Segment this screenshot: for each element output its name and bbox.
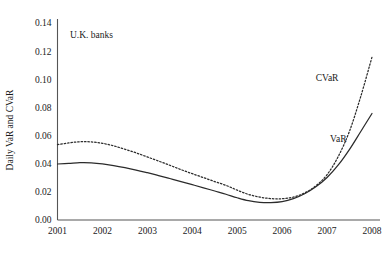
axis-lines — [58, 19, 381, 220]
x-tick-label: 2004 — [183, 226, 202, 236]
chart-container: 0.000.020.040.060.080.100.120.14 2001200… — [0, 0, 385, 257]
var-cvar-line-chart: 0.000.020.040.060.080.100.120.14 2001200… — [0, 0, 385, 257]
plot-annotation: U.K. banks — [70, 30, 113, 40]
series-label-var: VaR — [330, 134, 347, 144]
x-tick-label: 2008 — [363, 226, 382, 236]
y-tick-label: 0.00 — [35, 215, 52, 225]
series-label-cvar: CVaR — [316, 73, 339, 83]
x-tick-label: 2003 — [138, 226, 157, 236]
x-tick-label: 2005 — [228, 226, 247, 236]
x-tick-label: 2002 — [93, 226, 112, 236]
y-tick-label: 0.14 — [35, 18, 52, 28]
series-line-var — [58, 113, 373, 202]
x-tick-label: 2001 — [48, 226, 67, 236]
y-tick-label: 0.08 — [35, 103, 52, 113]
y-tick-label: 0.10 — [35, 75, 52, 85]
x-tick-label: 2006 — [273, 226, 292, 236]
series-labels: CVaRVaR — [316, 73, 347, 143]
y-axis-title: Daily VaR and CVaR — [5, 89, 15, 170]
y-tick-label: 0.04 — [35, 159, 52, 169]
y-tick-label: 0.02 — [35, 187, 52, 197]
y-tick-label: 0.12 — [35, 47, 52, 57]
y-axis-tick-labels: 0.000.020.040.060.080.100.120.14 — [35, 18, 52, 225]
x-axis-tick-labels: 20012002200320042005200620072008 — [48, 226, 382, 236]
y-tick-label: 0.06 — [35, 131, 52, 141]
x-tick-label: 2007 — [318, 226, 337, 236]
